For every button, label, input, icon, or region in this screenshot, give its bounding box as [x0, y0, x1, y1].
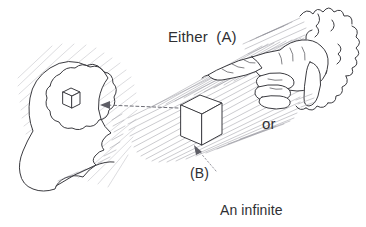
central-cube	[181, 95, 222, 145]
human-head-profile	[19, 61, 125, 191]
label-or: or	[262, 116, 276, 133]
label-series-line-1: An infinite	[220, 202, 303, 220]
brain-cube	[63, 88, 80, 108]
label-b-tag: (B)	[190, 166, 209, 182]
causal-series-figure: Either (A) or (B) An infinite causal ser…	[0, 0, 366, 227]
label-either-a: Either (A)	[168, 29, 237, 46]
label-infinite-causal-series: An infinite causal series	[220, 166, 303, 227]
